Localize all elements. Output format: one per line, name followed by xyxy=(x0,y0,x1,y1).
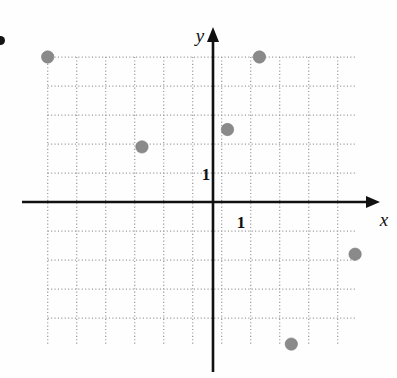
data-point xyxy=(349,248,361,260)
data-point xyxy=(253,51,265,63)
data-point xyxy=(136,141,148,153)
data-point xyxy=(285,338,297,350)
data-point xyxy=(221,123,233,135)
x-axis-tick-label-1: 1 xyxy=(237,213,246,232)
y-axis-label: y xyxy=(194,25,205,46)
y-axis-tick-label-1: 1 xyxy=(202,165,211,184)
grid-lines xyxy=(48,57,355,344)
axes xyxy=(22,27,380,372)
data-point xyxy=(42,51,54,63)
tick-labels: 1 1 xyxy=(202,165,246,232)
scatter-plot-figure: 1 1 y x xyxy=(0,0,397,378)
x-axis-label: x xyxy=(379,209,389,230)
coordinate-plane-svg: 1 1 y x xyxy=(0,0,397,378)
data-points xyxy=(42,51,362,351)
y-axis-arrow-icon xyxy=(207,27,219,42)
x-axis-arrow-icon xyxy=(366,196,380,208)
